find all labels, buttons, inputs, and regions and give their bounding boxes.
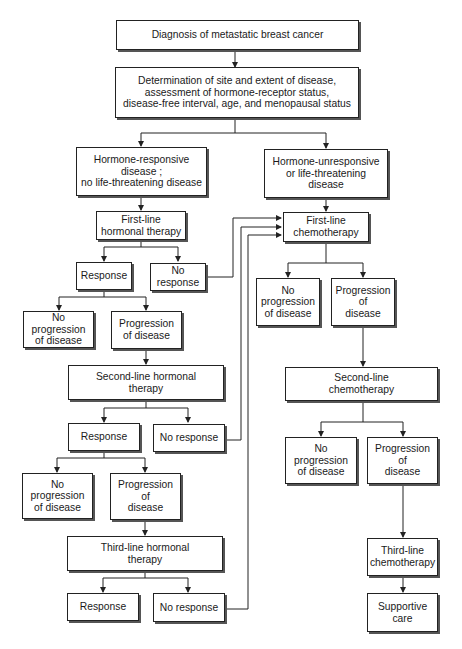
node-third-line-hormonal-therapy: Third-line hormonal therapy bbox=[67, 536, 223, 571]
node-no-progression-hormonal-1: No progression of disease bbox=[23, 311, 94, 348]
flowchart-canvas: Diagnosis of metastatic breast cancer De… bbox=[0, 0, 462, 649]
node-response-2: Response bbox=[68, 423, 140, 451]
node-second-line-hormonal-therapy: Second-line hormonal therapy bbox=[68, 365, 224, 400]
node-diagnosis: Diagnosis of metastatic breast cancer bbox=[116, 20, 359, 50]
node-no-response-2: No response bbox=[153, 424, 225, 452]
node-progression-hormonal-1: Progression of disease bbox=[111, 311, 182, 349]
node-chemo-progression-1: Progression of disease bbox=[331, 278, 395, 326]
node-hormone-responsive: Hormone-responsive disease ; no life-thr… bbox=[76, 147, 207, 196]
node-second-line-chemotherapy: Second-line chemotherapy bbox=[285, 367, 438, 401]
node-no-response-1: No response bbox=[150, 263, 206, 291]
node-no-response-3: No response bbox=[153, 593, 225, 622]
node-progression-hormonal-2: Progression of disease bbox=[110, 473, 181, 520]
node-chemo-progression-2: Progression of disease bbox=[367, 437, 438, 484]
node-hormone-unresponsive: Hormone-unresponsive or life-threatening… bbox=[264, 149, 388, 198]
node-response-1: Response bbox=[76, 262, 132, 290]
node-first-line-chemotherapy: First-line chemotherapy bbox=[283, 212, 369, 242]
node-no-progression-hormonal-2: No progression of disease bbox=[22, 473, 93, 519]
node-response-3: Response bbox=[67, 593, 139, 621]
node-determination: Determination of site and extent of dise… bbox=[115, 67, 359, 118]
node-supportive-care: Supportive care bbox=[367, 593, 438, 632]
node-third-line-chemotherapy: Third-line chemotherapy bbox=[367, 538, 438, 576]
node-chemo-no-progression-1: No progression of disease bbox=[256, 278, 320, 326]
node-chemo-no-progression-2: No progression of disease bbox=[285, 437, 357, 484]
node-first-line-hormonal-therapy: First-line hormonal therapy bbox=[96, 211, 186, 240]
